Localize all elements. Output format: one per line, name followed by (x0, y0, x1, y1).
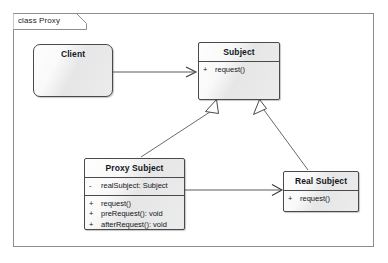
visibility-marker: + (203, 65, 215, 76)
class-box-real-subject[interactable]: Real Subject + request() (283, 171, 359, 212)
operation-label: afterRequest(): void (101, 220, 167, 231)
visibility-marker: + (89, 199, 101, 210)
operation-row: + preRequest(): void (89, 209, 181, 220)
class-name-client: Client (34, 45, 112, 63)
operation-row: + request() (203, 65, 276, 76)
visibility-marker: + (288, 194, 300, 205)
operations-compartment-subject: + request() (199, 62, 279, 79)
operation-row: + request() (288, 194, 355, 205)
visibility-marker: - (89, 181, 101, 192)
class-name-proxy-subject: Proxy Subject (85, 159, 184, 177)
class-name-real-subject: Real Subject (284, 172, 358, 190)
operations-compartment-real-subject: + request() (284, 191, 358, 208)
operation-label: preRequest(): void (101, 209, 163, 220)
operation-row: + request() (89, 199, 181, 210)
class-box-subject[interactable]: Subject + request() (198, 42, 280, 100)
class-box-proxy-subject[interactable]: Proxy Subject - realSubject: Subject + r… (84, 158, 185, 230)
class-box-client[interactable]: Client (33, 44, 113, 97)
operation-label: request() (300, 194, 330, 205)
visibility-marker: + (89, 209, 101, 220)
operation-label: request() (101, 199, 131, 210)
class-name-subject: Subject (199, 43, 279, 61)
frame-label: class Proxy (18, 16, 60, 25)
attribute-label: realSubject: Subject (101, 181, 168, 192)
visibility-marker: + (89, 220, 101, 231)
operation-row: + afterRequest(): void (89, 220, 181, 231)
operations-compartment-proxy-subject: + request() + preRequest(): void + after… (85, 196, 184, 234)
attributes-compartment-proxy-subject: - realSubject: Subject (85, 178, 184, 195)
frame-label-tab: class Proxy (13, 13, 87, 30)
attribute-row: - realSubject: Subject (89, 181, 181, 192)
operation-label: request() (215, 65, 245, 76)
